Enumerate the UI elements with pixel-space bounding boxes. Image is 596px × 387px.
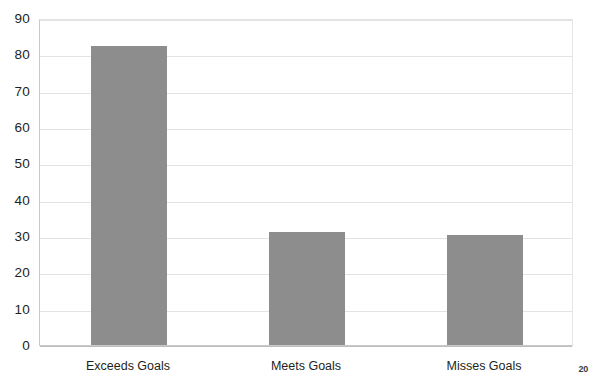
gridline-90 bbox=[40, 20, 572, 21]
y-tick-label-20: 20 bbox=[0, 266, 30, 280]
y-tick-label-80: 80 bbox=[0, 48, 30, 62]
y-tick-label-40: 40 bbox=[0, 194, 30, 208]
plot-area bbox=[39, 19, 573, 346]
y-tick-label-70: 70 bbox=[0, 85, 30, 99]
x-tick-label-misses-goals: Misses Goals bbox=[404, 360, 564, 373]
y-tick-label-60: 60 bbox=[0, 121, 30, 135]
page-number: 20 bbox=[578, 364, 588, 374]
y-tick-label-30: 30 bbox=[0, 230, 30, 244]
bar-misses-goals bbox=[447, 235, 523, 345]
bar-exceeds-goals bbox=[91, 46, 167, 345]
y-tick-label-0: 0 bbox=[0, 339, 30, 353]
x-tick-label-meets-goals: Meets Goals bbox=[226, 360, 386, 373]
y-tick-label-50: 50 bbox=[0, 157, 30, 171]
bar-meets-goals bbox=[269, 232, 345, 345]
y-tick-label-90: 90 bbox=[0, 12, 30, 26]
y-tick-label-10: 10 bbox=[0, 303, 30, 317]
x-tick-label-exceeds-goals: Exceeds Goals bbox=[48, 360, 208, 373]
gridline-0 bbox=[40, 346, 572, 347]
bar-chart-figure: 90 80 70 60 50 40 30 20 10 0 Exceeds Goa… bbox=[0, 0, 596, 387]
